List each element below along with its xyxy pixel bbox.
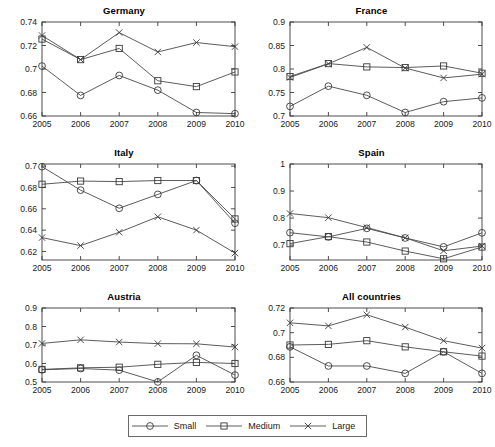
y-tick-label: 0.72: [268, 303, 285, 313]
x-tick-label: 2007: [357, 385, 376, 395]
series-large: [39, 337, 238, 351]
x-tick-label: 2010: [472, 119, 491, 129]
chart-panel-germany: Germany0.660.680.70.720.7420052006200720…: [0, 0, 248, 142]
series-polyline: [42, 217, 235, 253]
x-tick-label: 2008: [396, 263, 415, 273]
y-tick-label: 0.72: [20, 41, 37, 51]
axis-frame: [290, 22, 482, 116]
y-tick-label: 0.9: [25, 303, 37, 313]
series-medium: [287, 338, 485, 360]
series-polyline: [290, 228, 482, 247]
x-tick-label: 2009: [434, 119, 453, 129]
series-polyline: [290, 237, 482, 259]
series-large: [39, 214, 238, 257]
cross-marker: [155, 214, 161, 220]
x-tick-label: 2007: [110, 263, 129, 273]
cross-marker: [193, 227, 199, 233]
plot-area: 0.620.640.660.680.7200520062007200820092…: [0, 142, 248, 286]
series-polyline: [42, 33, 235, 60]
x-tick-label: 2006: [319, 263, 338, 273]
cross-marker: [77, 56, 83, 62]
y-tick-label: 0.64: [20, 225, 37, 235]
y-tick-label: 0.9: [273, 186, 285, 196]
series-polyline: [42, 362, 235, 369]
y-tick-label: 0.68: [268, 352, 285, 362]
x-tick-label: 2010: [225, 119, 244, 129]
y-tick-label: 0.7: [25, 64, 37, 74]
cross-marker: [402, 324, 408, 330]
chart-panel-spain: Spain0.70.80.91200520062007200820092010: [248, 142, 495, 286]
legend-swatch: [131, 419, 169, 433]
x-tick-label: 2009: [187, 385, 206, 395]
series-medium: [287, 234, 485, 262]
legend-swatch: [205, 419, 243, 433]
x-tick-label: 2010: [472, 385, 491, 395]
x-tick-label: 2005: [32, 263, 51, 273]
x-tick-label: 2007: [110, 385, 129, 395]
y-tick-label: 0.9: [273, 17, 285, 27]
cross-marker: [155, 49, 161, 55]
x-tick-label: 2007: [110, 119, 129, 129]
y-tick-label: 0.7: [25, 340, 37, 350]
chart-panel-austria: Austria0.50.60.70.80.9200520062007200820…: [0, 286, 248, 408]
series-polyline: [290, 213, 482, 250]
series-polyline: [42, 181, 235, 219]
series-large: [287, 44, 485, 81]
chart-panel-all-countries: All countries0.660.680.70.72200520062007…: [248, 286, 495, 408]
axis-frame: [290, 308, 482, 382]
axis-frame: [290, 164, 482, 260]
series-polyline: [290, 315, 482, 348]
series-medium: [39, 177, 238, 222]
cross-marker: [77, 242, 83, 248]
legend-label: Large: [327, 421, 364, 431]
legend-swatch: [289, 419, 327, 433]
x-tick-label: 2008: [396, 385, 415, 395]
x-tick-label: 2005: [32, 385, 51, 395]
y-tick-label: 0.7: [273, 240, 285, 250]
y-tick-label: 0.68: [20, 183, 37, 193]
plot-area: 0.50.60.70.80.9200520062007200820092010: [0, 286, 248, 408]
x-tick-label: 2009: [434, 263, 453, 273]
y-tick-label: 0.62: [20, 247, 37, 257]
x-tick-label: 2006: [71, 119, 90, 129]
x-tick-label: 2006: [319, 385, 338, 395]
cross-marker: [364, 312, 370, 318]
y-tick-label: 1: [280, 159, 285, 169]
legend-entry-medium: Medium: [205, 419, 289, 433]
legend-row: SmallMediumLarge: [129, 416, 366, 436]
axis-frame: [42, 164, 235, 260]
cross-marker: [116, 229, 122, 235]
legend-entry-large: Large: [289, 419, 364, 433]
series-polyline: [42, 167, 235, 224]
x-tick-label: 2008: [396, 119, 415, 129]
plot-area: 0.660.680.70.720.74200520062007200820092…: [0, 0, 248, 142]
x-tick-label: 2005: [32, 119, 51, 129]
legend-label: Small: [169, 421, 206, 431]
plot-area: 0.70.80.91200520062007200820092010: [248, 142, 495, 286]
x-tick-label: 2010: [225, 263, 244, 273]
series-polyline: [290, 47, 482, 78]
y-tick-label: 0.66: [20, 204, 37, 214]
series-polyline: [42, 39, 235, 87]
series-small: [287, 83, 486, 116]
chart-panel-italy: Italy0.620.640.660.680.72005200620072008…: [0, 142, 248, 286]
series-polyline: [290, 341, 482, 356]
series-small: [287, 343, 486, 376]
y-tick-label: 0.8: [25, 322, 37, 332]
x-tick-label: 2008: [148, 263, 167, 273]
plot-area: 0.70.750.80.850.920052006200720082009201…: [248, 0, 495, 142]
series-small: [39, 63, 239, 117]
x-tick-label: 2009: [187, 119, 206, 129]
series-large: [287, 210, 485, 254]
x-tick-label: 2007: [357, 119, 376, 129]
x-tick-label: 2008: [148, 119, 167, 129]
x-tick-label: 2009: [187, 263, 206, 273]
legend-entry-small: Small: [131, 419, 206, 433]
y-tick-label: 0.74: [20, 17, 37, 27]
y-tick-label: 0.6: [25, 359, 37, 369]
x-tick-label: 2007: [357, 263, 376, 273]
series-polyline: [290, 86, 482, 112]
series-small: [39, 163, 239, 226]
x-tick-label: 2010: [225, 385, 244, 395]
chart-panel-france: France0.70.750.80.850.920052006200720082…: [248, 0, 495, 142]
